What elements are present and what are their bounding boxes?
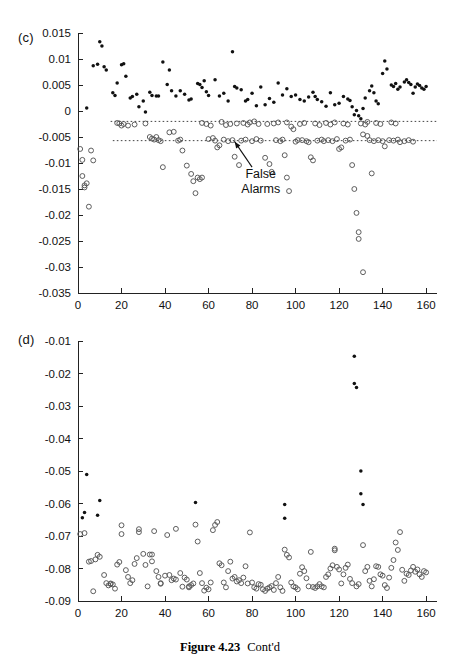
annotation-text-line2: Alarms: [241, 182, 280, 196]
data-point-filled: [342, 95, 346, 99]
data-point-open: [276, 575, 281, 580]
y-tick-label: 0.015: [42, 27, 71, 39]
data-point-filled: [363, 96, 367, 100]
data-point-filled: [161, 60, 165, 64]
data-point-filled: [83, 511, 87, 514]
y-tick-label: -0.025: [38, 235, 71, 247]
data-point-filled: [281, 93, 285, 97]
data-point-filled: [218, 94, 222, 98]
data-point-filled: [144, 110, 148, 114]
figure-caption-text: Cont'd: [247, 640, 280, 654]
panel-d: (d) -0.01-0.02-0.03-0.04-0.05-0.06-0.07-…: [0, 325, 460, 625]
data-point-filled: [355, 109, 359, 113]
data-point-filled: [276, 81, 280, 85]
data-point-filled: [231, 50, 235, 54]
y-tick-label: -0.015: [38, 183, 71, 195]
data-point-filled: [98, 40, 102, 44]
data-point-open: [154, 569, 159, 574]
data-point-filled: [183, 93, 187, 97]
data-point-filled: [226, 99, 230, 103]
data-point-open: [219, 119, 224, 124]
panel-d-plot: -0.01-0.02-0.03-0.04-0.05-0.06-0.07-0.08…: [0, 325, 460, 625]
data-point-filled: [122, 62, 126, 66]
data-point-filled: [289, 95, 293, 99]
data-point-filled: [142, 99, 146, 103]
data-point-open: [263, 155, 268, 160]
data-point-open: [365, 564, 370, 569]
data-point-open: [143, 121, 148, 126]
data-point-filled: [409, 83, 413, 87]
x-tick-label: 140: [373, 607, 392, 619]
data-point-filled: [202, 79, 206, 83]
data-point-open: [317, 123, 322, 128]
data-point-open: [165, 533, 170, 538]
data-point-open: [150, 559, 155, 564]
data-point-filled: [165, 83, 169, 87]
data-point-open: [395, 548, 400, 553]
data-point-filled: [255, 104, 259, 108]
x-tick-label: 20: [115, 607, 128, 619]
data-point-filled: [91, 64, 95, 68]
x-tick-label: 160: [417, 299, 436, 311]
data-point-open: [195, 539, 200, 544]
data-point-filled: [353, 113, 357, 117]
data-point-open: [178, 571, 183, 576]
data-point-filled: [200, 86, 204, 90]
data-point-open: [308, 549, 313, 554]
data-point-filled: [85, 473, 89, 477]
data-point-filled: [377, 102, 381, 106]
data-point-filled: [348, 99, 352, 103]
y-tick-label: -0.02: [45, 368, 71, 380]
x-tick-label: 160: [417, 607, 436, 619]
y-tick-label: -0.04: [45, 433, 72, 445]
data-point-open: [284, 175, 289, 180]
data-point-filled: [333, 103, 337, 107]
panel-c-plot: 0.0150.010.0050-0.005-0.01-0.015-0.02-0.…: [0, 20, 460, 320]
data-point-filled: [85, 106, 89, 110]
data-point-open: [274, 581, 279, 586]
series-detections-filled: [85, 40, 428, 120]
data-point-open: [243, 564, 248, 569]
data-point-filled: [359, 117, 363, 121]
data-point-open: [369, 584, 374, 589]
data-point-open: [197, 571, 202, 576]
data-point-filled: [383, 59, 387, 63]
data-point-filled: [259, 85, 263, 89]
data-point-filled: [368, 89, 372, 93]
data-point-open: [132, 562, 137, 567]
data-point-open: [173, 526, 178, 531]
data-point-filled: [268, 97, 272, 101]
data-point-open: [350, 163, 355, 168]
data-point-open: [302, 569, 307, 574]
data-point-filled: [194, 501, 198, 505]
x-tick-label: 0: [75, 299, 81, 311]
x-tick-label: 100: [286, 299, 305, 311]
data-point-open: [371, 577, 376, 582]
data-point-filled: [294, 93, 298, 97]
data-point-filled: [361, 503, 365, 507]
data-point-filled: [148, 91, 152, 95]
data-point-filled: [413, 85, 417, 89]
data-point-open: [352, 187, 357, 192]
data-point-open: [193, 191, 198, 196]
data-point-open: [224, 585, 229, 590]
y-tick-label: -0.01: [45, 335, 71, 347]
data-point-filled: [150, 94, 154, 98]
data-point-filled: [98, 499, 102, 503]
x-tick-label: 140: [373, 299, 392, 311]
data-point-filled: [263, 103, 267, 107]
data-point-open: [143, 562, 148, 567]
y-tick-label: 0: [65, 105, 71, 117]
data-point-filled: [239, 88, 243, 92]
y-tick-label: -0.03: [45, 400, 71, 412]
data-point-open: [134, 556, 139, 561]
data-point-open: [91, 158, 96, 163]
figure-caption-number: Figure 4.23: [180, 640, 240, 654]
data-point-open: [282, 547, 287, 552]
figure-container: (c) 0.0150.010.0050-0.005-0.01-0.015-0.0…: [0, 0, 460, 671]
data-point-open: [228, 559, 233, 564]
data-point-filled: [355, 386, 359, 389]
data-point-open: [226, 569, 231, 574]
data-point-filled: [392, 85, 396, 89]
data-point-filled: [157, 94, 161, 98]
